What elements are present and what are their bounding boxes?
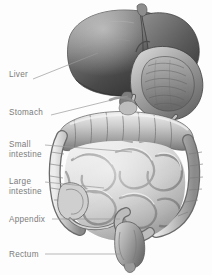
label-rectum: Rectum bbox=[9, 250, 39, 260]
digestive-system-illustration bbox=[0, 0, 212, 275]
label-appendix: Appendix bbox=[9, 215, 45, 225]
label-small-intestine: Small intestine bbox=[9, 140, 42, 159]
digestive-system-figure: Liver Stomach Small intestine Large inte… bbox=[0, 0, 212, 275]
label-liver: Liver bbox=[9, 70, 28, 80]
label-stomach: Stomach bbox=[9, 108, 43, 118]
label-large-intestine: Large intestine bbox=[9, 177, 42, 196]
